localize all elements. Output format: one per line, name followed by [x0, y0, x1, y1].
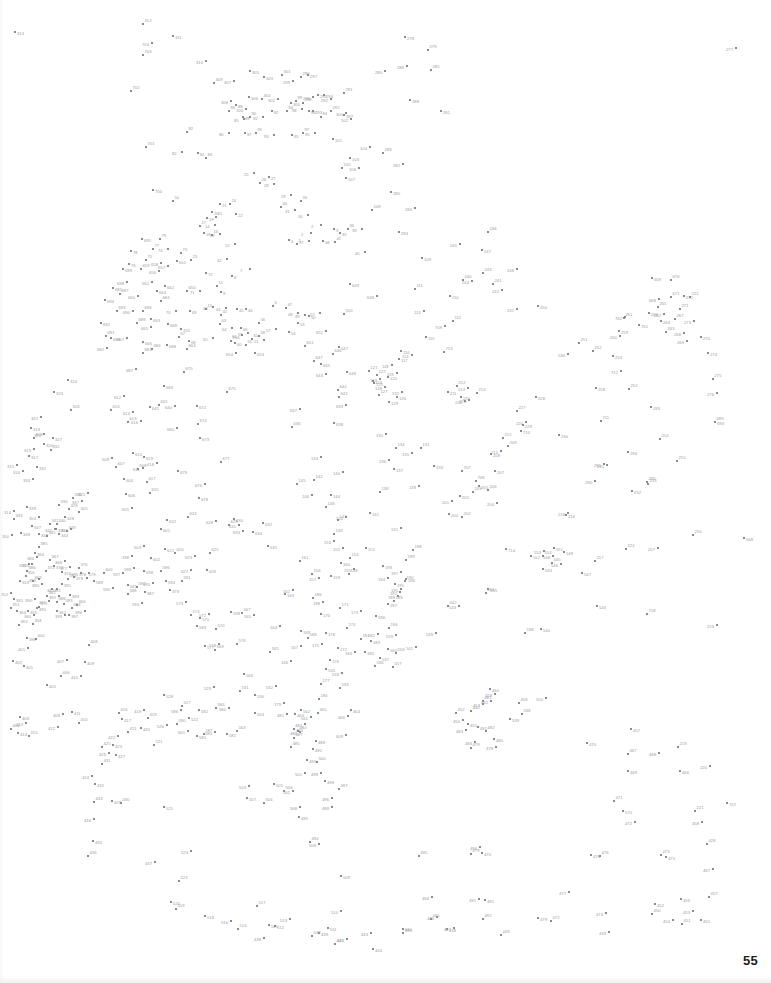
puzzle-dot[interactable]	[290, 746, 292, 748]
puzzle-dot[interactable]	[127, 584, 129, 586]
puzzle-dot[interactable]	[627, 753, 629, 755]
puzzle-dot[interactable]	[214, 731, 216, 733]
puzzle-dot[interactable]	[236, 730, 238, 732]
puzzle-dot[interactable]	[487, 231, 489, 233]
puzzle-dot[interactable]	[692, 910, 694, 912]
puzzle-dot[interactable]	[132, 452, 134, 454]
puzzle-dot[interactable]	[156, 462, 158, 464]
puzzle-dot[interactable]	[259, 182, 261, 184]
puzzle-dot[interactable]	[440, 110, 442, 112]
puzzle-dot[interactable]	[404, 580, 406, 582]
puzzle-dot[interactable]	[188, 340, 190, 342]
puzzle-dot[interactable]	[677, 746, 679, 748]
puzzle-dot[interactable]	[175, 310, 177, 312]
puzzle-dot[interactable]	[312, 96, 314, 98]
puzzle-dot[interactable]	[255, 132, 257, 134]
puzzle-dot[interactable]	[131, 555, 133, 557]
puzzle-dot[interactable]	[530, 555, 532, 557]
puzzle-dot[interactable]	[206, 569, 208, 571]
puzzle-dot[interactable]	[120, 802, 122, 804]
puzzle-dot[interactable]	[475, 480, 477, 482]
puzzle-dot[interactable]	[272, 305, 274, 307]
puzzle-dot[interactable]	[57, 726, 59, 728]
puzzle-dot[interactable]	[19, 580, 21, 582]
puzzle-dot[interactable]	[215, 628, 217, 630]
puzzle-dot[interactable]	[605, 912, 607, 914]
puzzle-dot[interactable]	[112, 587, 114, 589]
puzzle-dot[interactable]	[204, 645, 206, 647]
puzzle-dot[interactable]	[13, 518, 15, 520]
puzzle-dot[interactable]	[476, 392, 478, 394]
puzzle-dot[interactable]	[431, 896, 433, 898]
puzzle-dot[interactable]	[525, 421, 527, 423]
puzzle-dot[interactable]	[292, 589, 294, 591]
puzzle-dot[interactable]	[581, 572, 583, 574]
puzzle-dot[interactable]	[285, 307, 287, 309]
puzzle-dot[interactable]	[596, 605, 598, 607]
puzzle-dot[interactable]	[38, 546, 40, 548]
puzzle-dot[interactable]	[391, 364, 393, 366]
puzzle-dot[interactable]	[140, 727, 142, 729]
puzzle-dot[interactable]	[32, 478, 34, 480]
puzzle-dot[interactable]	[492, 283, 494, 285]
puzzle-dot[interactable]	[115, 466, 117, 468]
puzzle-dot[interactable]	[651, 913, 653, 915]
puzzle-dot[interactable]	[211, 211, 213, 213]
puzzle-dot[interactable]	[145, 146, 147, 148]
puzzle-dot[interactable]	[332, 138, 334, 140]
puzzle-dot[interactable]	[230, 340, 232, 342]
puzzle-dot[interactable]	[320, 683, 322, 685]
puzzle-dot[interactable]	[106, 347, 108, 349]
puzzle-dot[interactable]	[143, 456, 145, 458]
puzzle-dot[interactable]	[48, 600, 50, 602]
puzzle-dot[interactable]	[205, 60, 207, 62]
puzzle-dot[interactable]	[176, 427, 178, 429]
puzzle-dot[interactable]	[216, 285, 218, 287]
puzzle-dot[interactable]	[141, 238, 143, 240]
puzzle-dot[interactable]	[220, 461, 222, 463]
puzzle-dot[interactable]	[316, 761, 318, 763]
puzzle-dot[interactable]	[679, 308, 681, 310]
puzzle-dot[interactable]	[131, 507, 133, 509]
puzzle-dot[interactable]	[60, 675, 62, 677]
puzzle-dot[interactable]	[535, 396, 537, 398]
puzzle-dot[interactable]	[56, 523, 58, 525]
puzzle-dot[interactable]	[10, 592, 12, 594]
puzzle-dot[interactable]	[312, 597, 314, 599]
puzzle-dot[interactable]	[595, 387, 597, 389]
puzzle-dot[interactable]	[239, 690, 241, 692]
puzzle-dot[interactable]	[72, 497, 74, 499]
puzzle-dot[interactable]	[500, 934, 502, 936]
puzzle-dot[interactable]	[104, 299, 106, 301]
puzzle-dot[interactable]	[93, 801, 95, 803]
puzzle-dot[interactable]	[219, 323, 221, 325]
puzzle-dot[interactable]	[56, 588, 58, 590]
puzzle-dot[interactable]	[306, 759, 308, 761]
puzzle-dot[interactable]	[689, 296, 691, 298]
puzzle-dot[interactable]	[333, 422, 335, 424]
puzzle-dot[interactable]	[25, 575, 27, 577]
puzzle-dot[interactable]	[28, 455, 30, 457]
puzzle-dot[interactable]	[395, 652, 397, 654]
puzzle-dot[interactable]	[594, 480, 596, 482]
puzzle-dot[interactable]	[152, 248, 154, 250]
puzzle-dot[interactable]	[273, 783, 275, 785]
puzzle-dot[interactable]	[123, 395, 125, 397]
puzzle-dot[interactable]	[657, 547, 659, 549]
puzzle-dot[interactable]	[334, 241, 336, 243]
puzzle-dot[interactable]	[461, 470, 463, 472]
puzzle-dot[interactable]	[623, 317, 625, 319]
puzzle-dot[interactable]	[327, 927, 329, 929]
puzzle-dot[interactable]	[550, 920, 552, 922]
puzzle-dot[interactable]	[462, 719, 464, 721]
puzzle-dot[interactable]	[291, 426, 293, 428]
puzzle-dot[interactable]	[64, 560, 66, 562]
puzzle-dot[interactable]	[385, 433, 387, 435]
puzzle-dot[interactable]	[650, 406, 652, 408]
puzzle-dot[interactable]	[93, 818, 95, 820]
puzzle-dot[interactable]	[430, 918, 432, 920]
puzzle-dot[interactable]	[91, 775, 93, 777]
puzzle-dot[interactable]	[392, 666, 394, 668]
puzzle-dot[interactable]	[459, 495, 461, 497]
puzzle-dot[interactable]	[340, 910, 342, 912]
